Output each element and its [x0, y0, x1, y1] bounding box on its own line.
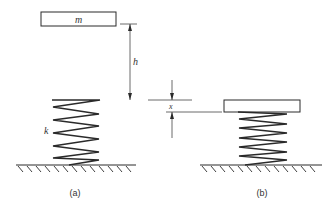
compression-arrow-up-icon: [170, 112, 174, 119]
panel-b: (b): [200, 100, 322, 198]
mass-label: m: [75, 14, 82, 25]
caption-a: (a): [70, 188, 81, 198]
spring-b: [238, 112, 287, 165]
spring-a: [52, 100, 100, 165]
height-arrow-down-icon: [128, 93, 132, 100]
mass-block-compressed: [224, 100, 300, 112]
height-arrow-up-icon: [128, 24, 132, 31]
compression-arrow-down-icon: [170, 93, 174, 100]
height-label: h: [133, 56, 138, 67]
panel-a: m h k (a): [16, 12, 138, 198]
ground-b-hatching: [202, 166, 315, 172]
spring-constant-label: k: [44, 125, 49, 136]
compression-dimension: x: [148, 80, 222, 138]
ground-a-hatching: [18, 166, 131, 172]
compression-label: x: [168, 102, 173, 111]
caption-b: (b): [257, 188, 268, 198]
diagram-canvas: m h k (a): [0, 0, 334, 208]
